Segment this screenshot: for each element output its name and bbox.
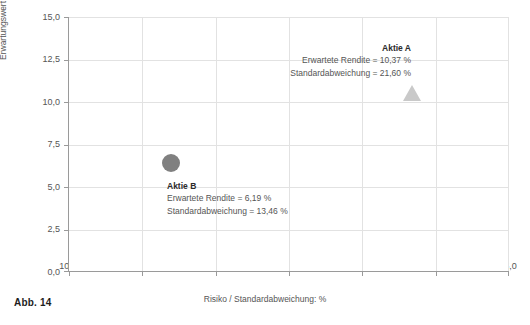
annotation-aktie-a-title: Aktie A: [290, 42, 411, 54]
y-axis-tick: [64, 102, 69, 103]
gridline-vertical: [508, 17, 509, 271]
gridline-vertical: [216, 17, 217, 271]
y-axis-tick: [64, 230, 69, 231]
y-tick-label: 10,0: [16, 98, 60, 107]
annotation-aktie-a: Aktie A Erwartete Rendite = 10,37 % Stan…: [290, 42, 411, 79]
y-tick-label: 15,0: [16, 13, 60, 22]
y-axis-tick: [64, 60, 69, 61]
annotation-aktie-a-line-1: Erwartete Rendite = 10,37 %: [290, 54, 411, 66]
data-point-aktie-b[interactable]: [162, 154, 180, 172]
gridline-vertical: [436, 17, 437, 271]
x-axis-tick: [142, 271, 143, 276]
x-axis-tick: [508, 271, 509, 276]
x-axis-tick: [436, 271, 437, 276]
data-point-aktie-a[interactable]: [403, 85, 421, 101]
annotation-aktie-b-line-2: Standardabweichung = 13,46 %: [167, 205, 288, 217]
y-axis-tick: [64, 145, 69, 146]
annotation-aktie-b-title: Aktie B: [167, 180, 288, 192]
y-tick-label: 2,5: [16, 225, 60, 234]
gridline-vertical: [142, 17, 143, 271]
annotation-aktie-b-line-1: Erwartete Rendite = 6,19 %: [167, 192, 288, 204]
y-tick-label: 7,5: [16, 140, 60, 149]
x-axis-tick: [69, 271, 70, 276]
x-axis-tick: [216, 271, 217, 276]
figure-caption: Abb. 14: [14, 297, 52, 308]
y-axis-tick: [64, 187, 69, 188]
y-tick-label: 12,5: [16, 55, 60, 64]
plot-area: Aktie A Erwartete Rendite = 10,37 % Stan…: [68, 17, 508, 272]
y-axis-title: Erwartungswert / TR stetig: %: [0, 0, 8, 60]
annotation-aktie-a-line-2: Standardabweichung = 21,60 %: [290, 67, 411, 79]
x-axis-title: Risiko / Standardabweichung: %: [0, 294, 530, 304]
x-axis-tick: [289, 271, 290, 276]
annotation-aktie-b: Aktie B Erwartete Rendite = 6,19 % Stand…: [167, 180, 288, 217]
y-axis-tick: [64, 17, 69, 18]
x-axis-tick: [362, 271, 363, 276]
y-tick-label: 5,0: [16, 183, 60, 192]
figure-container: Erwartungswert / TR stetig: % 15,0 12,5 …: [0, 0, 530, 325]
